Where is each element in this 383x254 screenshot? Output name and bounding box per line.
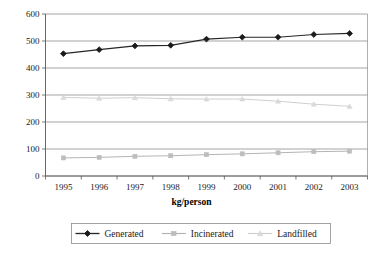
data-point-incinerated-1999	[204, 153, 208, 157]
x-tick-label-2001: 2001	[269, 182, 287, 192]
y-tick-label-0: 0	[35, 171, 40, 181]
x-tick-label-1995: 1995	[54, 182, 73, 192]
x-tick-label-2002: 2002	[305, 182, 323, 192]
y-tick-label-100: 100	[26, 144, 40, 154]
legend-label-landfilled: Landfilled	[277, 229, 317, 239]
chart-background	[0, 0, 383, 254]
data-point-incinerated-1998	[169, 154, 173, 158]
data-point-incinerated-1996	[97, 155, 101, 159]
x-tick-label-1999: 1999	[198, 182, 217, 192]
data-point-incinerated-1997	[133, 154, 137, 158]
y-tick-label-400: 400	[26, 63, 40, 73]
data-point-incinerated-2001	[276, 151, 280, 155]
y-tick-label-200: 200	[26, 117, 40, 127]
x-tick-label-2000: 2000	[233, 182, 252, 192]
x-axis-title: kg/person	[171, 197, 212, 207]
legend-label-generated: Generated	[105, 229, 144, 239]
legend-label-incinerated: Incinerated	[191, 229, 234, 239]
y-tick-label-300: 300	[26, 90, 40, 100]
x-tick-label-1996: 1996	[90, 182, 109, 192]
x-tick-label-2003: 2003	[341, 182, 360, 192]
line-chart: 0100200300400500600 19951996199719981999…	[0, 0, 383, 254]
x-tick-label-1997: 1997	[126, 182, 145, 192]
data-point-incinerated-2003	[348, 149, 352, 153]
y-tick-label-500: 500	[26, 36, 40, 46]
x-tick-labels: 199519961997199819992000200120022003	[54, 182, 359, 192]
chart-canvas: 0100200300400500600 19951996199719981999…	[0, 0, 383, 254]
x-tick-label-1998: 1998	[162, 182, 181, 192]
data-point-incinerated-2000	[240, 152, 244, 156]
data-point-incinerated-2002	[312, 150, 316, 154]
legend-marker-square-icon	[172, 231, 176, 235]
data-point-incinerated-1995	[61, 156, 65, 160]
y-tick-label-600: 600	[26, 9, 40, 19]
